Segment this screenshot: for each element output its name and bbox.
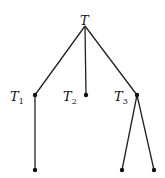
leaf-3: [152, 168, 156, 172]
edge-T-T3: [85, 26, 137, 95]
edge-T3-L2: [122, 95, 137, 170]
nodes: [33, 93, 156, 172]
tree-diagram: T T1 T2 T3: [0, 0, 165, 178]
node-T1: [33, 93, 37, 97]
leaf-2: [120, 168, 124, 172]
label-T2: T2: [63, 89, 77, 106]
leaf-1: [33, 168, 37, 172]
node-T3: [135, 93, 139, 97]
edge-T-T1: [35, 26, 85, 95]
edge-T-T2: [85, 26, 86, 95]
label-root: T: [80, 13, 90, 28]
edge-T3-L3: [137, 95, 154, 170]
label-T3: T3: [114, 89, 128, 106]
label-T1: T1: [10, 89, 24, 106]
node-T2: [84, 93, 88, 97]
edges: [35, 26, 154, 170]
